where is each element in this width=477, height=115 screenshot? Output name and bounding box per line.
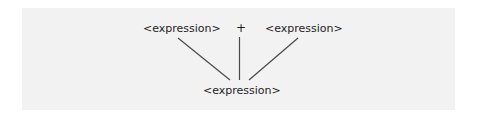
node-left-expression: <expression> [143, 23, 221, 34]
connector-left [178, 38, 230, 80]
connector-lines [0, 0, 477, 115]
connector-right [249, 38, 298, 80]
node-plus-operator: + [236, 22, 246, 34]
node-root-expression: <expression> [203, 85, 281, 96]
node-right-expression: <expression> [265, 23, 343, 34]
